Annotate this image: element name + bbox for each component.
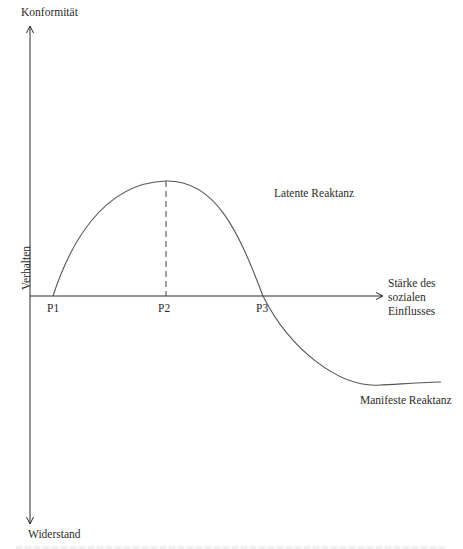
point-label-p3: P3 <box>256 301 268 315</box>
y-axis-title: Verhalten <box>19 246 33 290</box>
x-axis-title-line-3: Einflusses <box>388 304 458 318</box>
x-axis-title: Stärke des sozialen Einflusses <box>388 276 458 318</box>
y-axis-top-label: Konformität <box>21 5 78 19</box>
point-label-p1: P1 <box>47 301 59 315</box>
latent-reactance-label: Latente Reaktanz <box>274 186 354 200</box>
y-axis-bottom-label: Widerstand <box>28 527 81 541</box>
point-label-p2: P2 <box>158 301 170 315</box>
x-axis-title-line-1: Stärke des <box>388 276 458 290</box>
x-axis-title-line-2: sozialen <box>388 290 458 304</box>
manifest-reactance-label: Manifeste Reaktanz <box>360 393 452 407</box>
reactance-curve <box>53 181 441 385</box>
reactance-diagram <box>0 0 463 549</box>
